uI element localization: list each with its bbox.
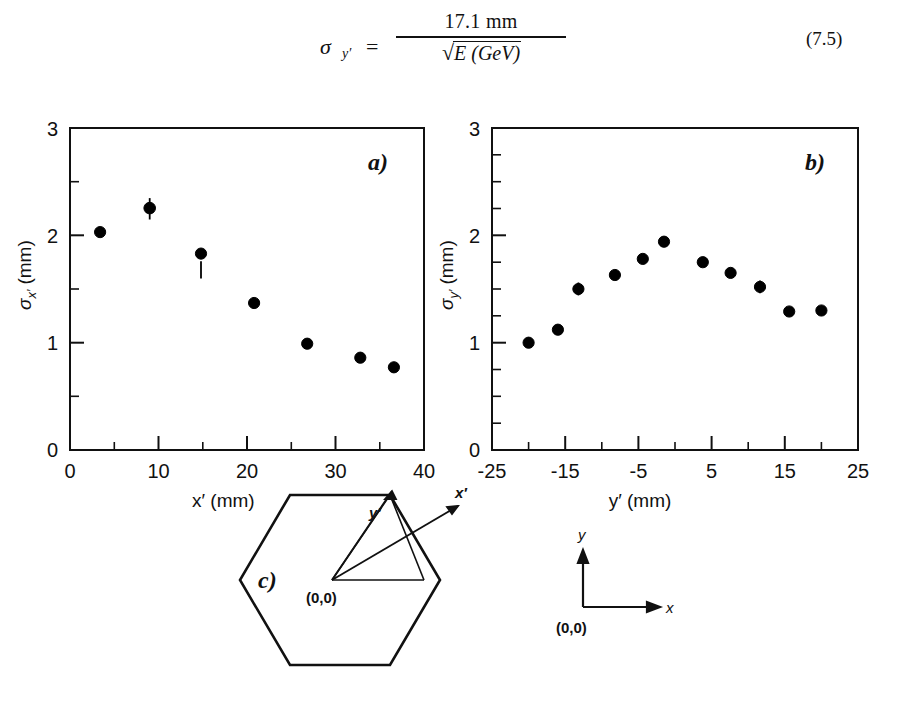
svg-text:σy′(mm): σy′(mm) <box>436 240 461 310</box>
panel-a-ytick-3: 3 <box>47 118 58 140</box>
panel-a-xtick-40: 40 <box>413 460 435 482</box>
panel-b-xtick-15: 15 <box>774 460 796 482</box>
panel-a-ytick-1: 1 <box>47 332 58 354</box>
radical-sign: √ <box>442 40 454 65</box>
panel-a-x-major-ticks <box>70 436 424 450</box>
data-point <box>355 352 366 363</box>
panel-b-yaxis-units: (mm) <box>436 240 457 284</box>
yprime-axis-label: y′ <box>368 504 382 521</box>
panel-b-yaxis-label: σy′(mm) <box>436 240 461 310</box>
global-axis-x-label: x <box>665 599 674 616</box>
data-point <box>195 248 206 259</box>
panel-b-series <box>523 236 827 348</box>
panel-b-xaxis-label: y′ (mm) <box>609 490 672 511</box>
xprime-axis-label: x′ <box>454 484 468 501</box>
local-origin-label: (0,0) <box>306 589 337 606</box>
panel-b-x-minor-ticks <box>529 442 822 450</box>
panel-b-y-minor-ticks <box>492 155 501 423</box>
data-point <box>95 227 106 238</box>
panel-a-frame <box>70 128 424 450</box>
data-point <box>784 306 795 317</box>
equation-number: (7.5) <box>806 28 842 50</box>
global-origin-label: (0,0) <box>556 619 587 636</box>
data-point <box>573 283 584 294</box>
radicand: E (GeV) <box>454 42 520 64</box>
sigma-subscript: y′ <box>342 46 351 62</box>
panel-b-ytick-0: 0 <box>469 439 480 461</box>
data-point <box>249 297 260 308</box>
panel-a-yaxis-label: σx′(mm) <box>14 240 39 310</box>
data-point <box>816 305 827 316</box>
panel-a-series <box>95 198 400 373</box>
data-point <box>609 269 620 280</box>
panel-a-xtick-20: 20 <box>236 460 258 482</box>
fraction-numerator: 17.1 mm <box>396 10 566 33</box>
panel-b-ytick-3: 3 <box>469 118 480 140</box>
data-point <box>697 257 708 268</box>
radical-overbar <box>453 41 521 42</box>
panel-a-xtick-10: 10 <box>147 460 169 482</box>
data-point <box>725 267 736 278</box>
panel-b-ytick-2: 2 <box>469 225 480 247</box>
panel-b-frame <box>492 128 858 450</box>
yprime-axis-arrow <box>332 491 396 580</box>
data-point <box>144 202 156 214</box>
global-axis-y-label: y <box>577 526 587 543</box>
equation-block: σ y′ = 17.1 mm √E (GeV) (7.5) <box>0 0 899 95</box>
panel-a-yaxis-sub: x′ <box>24 289 39 300</box>
panel-a-xaxis-label-text: x′ (mm) <box>192 490 255 511</box>
panel-a-label: a) <box>368 149 388 175</box>
panel-b-label: b) <box>805 149 825 175</box>
panel-b-xaxis-label-text: y′ (mm) <box>609 490 672 511</box>
fraction: 17.1 mm √E (GeV) <box>396 10 566 66</box>
radical-group: √E (GeV) <box>442 40 520 66</box>
panel-a-y-minor-ticks <box>70 182 79 397</box>
panel-b-yaxis-sub: y′ <box>446 289 461 300</box>
data-point <box>523 337 534 348</box>
fraction-bar <box>396 36 566 38</box>
panel-b-ytick-1: 1 <box>469 332 480 354</box>
panel-c: y′ x′ (0,0) c) y x (0,0) <box>240 484 674 665</box>
panel-b-xtick-m5: -5 <box>630 460 648 482</box>
panel-a-ytick-2: 2 <box>47 225 58 247</box>
panel-a-ytick-0: 0 <box>47 439 58 461</box>
equals-sign: = <box>366 34 378 60</box>
data-point <box>658 236 669 247</box>
panel-b-xtick-25: 25 <box>847 460 869 482</box>
data-point <box>552 324 563 335</box>
data-point <box>302 338 313 349</box>
panel-a-yaxis-units: (mm) <box>14 240 35 284</box>
xprime-axis-arrow <box>332 506 458 580</box>
fraction-denominator: √E (GeV) <box>396 40 566 66</box>
panel-c-label: c) <box>258 567 277 593</box>
panel-a-xaxis-label: x′ (mm) <box>192 490 255 511</box>
panel-b-xtick-m25: -25 <box>478 460 507 482</box>
panel-b-xtick-m15: -15 <box>551 460 580 482</box>
global-axes <box>578 550 660 612</box>
svg-text:σx′(mm): σx′(mm) <box>14 240 39 310</box>
panel-a-xtick-0: 0 <box>64 460 75 482</box>
figure-root: σ y′ = 17.1 mm √E (GeV) (7.5) <box>0 0 899 706</box>
equation-7-5: σ y′ = 17.1 mm √E (GeV) <box>300 8 600 88</box>
sigma-symbol: σ <box>320 34 331 60</box>
panel-a-xtick-30: 30 <box>324 460 346 482</box>
panel-a: 0 1 2 3 0 10 20 30 40 x′ (mm) σx′(mm) a) <box>14 118 435 511</box>
panel-b: 0 1 2 3 -25 -15 -5 5 15 25 y′ (mm) σy′(m… <box>436 118 869 511</box>
data-point <box>388 362 399 373</box>
data-point <box>754 281 765 292</box>
panel-b-xtick-5: 5 <box>706 460 717 482</box>
data-point <box>637 253 648 264</box>
